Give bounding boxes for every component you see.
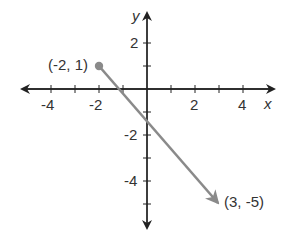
point-label-start: (-2, 1) xyxy=(48,56,88,73)
x-axis-label: x xyxy=(264,95,272,112)
x-tick-label: 2 xyxy=(190,96,198,113)
coordinate-plane: y x -4 -2 2 4 2 -2 -4 (-2, 1) (3, -5) xyxy=(0,0,287,230)
ray-series xyxy=(95,62,218,203)
x-tick-label: -4 xyxy=(41,96,54,113)
x-tick-label: 4 xyxy=(238,96,246,113)
y-axis-label: y xyxy=(132,7,140,24)
y-tick-label: -2 xyxy=(124,126,137,143)
y-tick-label: 2 xyxy=(130,34,138,51)
y-tick-label: -4 xyxy=(124,172,137,189)
start-point-dot xyxy=(95,62,103,70)
point-label-end: (3, -5) xyxy=(224,193,264,210)
x-tick-label: -2 xyxy=(89,96,102,113)
